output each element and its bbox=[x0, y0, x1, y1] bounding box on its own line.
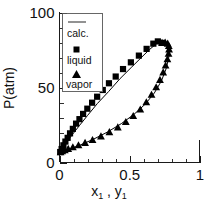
data-point-vapor bbox=[162, 61, 170, 68]
data-point-vapor bbox=[89, 136, 97, 143]
data-point-liquid bbox=[84, 106, 90, 112]
data-point-vapor bbox=[97, 132, 105, 139]
x-axis-title-y-sub: 1 bbox=[122, 191, 127, 201]
phase-diagram-plot: 00.51050100 calc. liquid vapor x1 , y1 P… bbox=[0, 0, 218, 206]
legend-marker-liquid-icon bbox=[74, 47, 80, 53]
data-point-liquid bbox=[94, 94, 100, 100]
x-tick-label: 0.5 bbox=[119, 166, 140, 183]
tick-labels: 00.51050100 bbox=[29, 4, 204, 183]
data-point-liquid bbox=[106, 80, 112, 86]
data-point-liquid bbox=[120, 66, 126, 72]
y-tick-label: 50 bbox=[38, 79, 55, 96]
y-axis-title: P(atm) bbox=[1, 67, 17, 109]
data-point-liquid bbox=[136, 53, 142, 59]
x-axis-title-y: y bbox=[115, 183, 122, 199]
chart-figure: 00.51050100 calc. liquid vapor x1 , y1 P… bbox=[0, 0, 218, 206]
data-point-liquid bbox=[128, 59, 134, 65]
x-axis-title: x1 , y1 bbox=[91, 183, 127, 201]
legend-label-vapor: vapor bbox=[66, 78, 93, 90]
data-point-vapor bbox=[148, 91, 156, 98]
x-tick-label: 0 bbox=[55, 166, 63, 183]
data-point-liquid bbox=[113, 73, 119, 79]
x-axis-title-x: x bbox=[91, 183, 98, 199]
legend-label-liquid: liquid bbox=[67, 54, 92, 66]
x-tick-label: 1 bbox=[196, 166, 204, 183]
data-point-vapor bbox=[122, 118, 130, 125]
y-tick-label: 100 bbox=[29, 4, 54, 21]
legend: calc. liquid vapor bbox=[63, 14, 103, 92]
x-axis-title-comma: , bbox=[103, 183, 115, 199]
data-point-liquid bbox=[144, 46, 150, 52]
legend-label-calc: calc. bbox=[67, 27, 89, 39]
data-point-liquid bbox=[89, 100, 95, 106]
data-point-vapor bbox=[81, 139, 89, 146]
y-tick-label: 0 bbox=[46, 154, 54, 171]
